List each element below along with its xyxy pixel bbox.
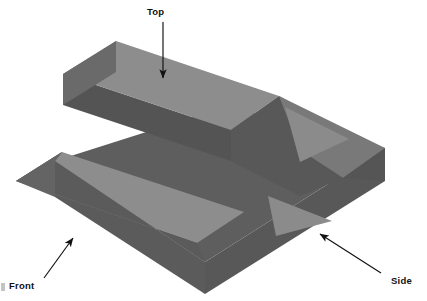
annotation-side-arrow [320, 234, 381, 273]
annotation-front-label: Front [9, 280, 35, 291]
annotation-side-label: Side [391, 275, 412, 286]
block-solid [16, 41, 385, 294]
annotation-front: Front [9, 238, 73, 291]
figure-canvas: Top Front Side [0, 0, 427, 301]
annotation-front-arrow [44, 238, 73, 278]
annotation-top-label: Top [147, 6, 164, 17]
annotation-side: Side [320, 234, 412, 286]
isometric-block-illustration: Top Front Side [0, 0, 427, 301]
scan-artifact-mark [1, 283, 5, 291]
